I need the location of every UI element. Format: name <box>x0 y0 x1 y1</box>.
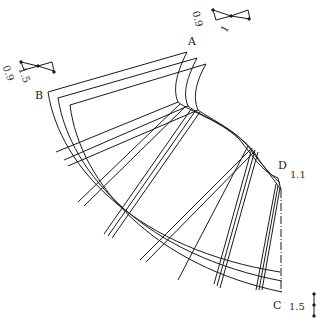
point-label-a: A <box>188 36 196 47</box>
waist-curves <box>176 52 281 190</box>
right-scale-symbol <box>313 293 315 317</box>
d-value: 1.1 <box>290 170 306 180</box>
point-label-b: B <box>35 90 43 101</box>
point-label-c: C <box>273 300 281 311</box>
panel-lines <box>56 102 280 290</box>
point-label-d: D <box>278 160 287 171</box>
top-scale-symbol <box>212 9 250 20</box>
top-edge-lines <box>48 52 206 105</box>
c-value: 1.5 <box>289 302 305 312</box>
pattern-diagram <box>0 0 323 320</box>
